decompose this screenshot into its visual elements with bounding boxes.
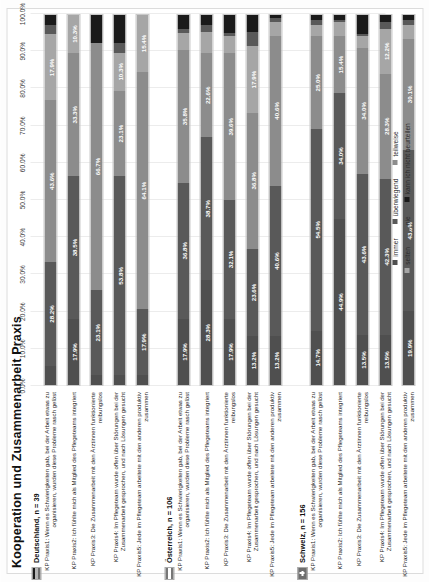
axis-tick-10: 10.0% <box>18 339 25 358</box>
bar-segment-5 <box>356 15 368 34</box>
bar-segment-4 <box>379 22 391 29</box>
legend-label: nie <box>403 216 410 225</box>
legend-swatch-icon <box>392 160 397 165</box>
axis-tick-90: 90.0% <box>18 42 25 61</box>
bar-segment-2: 40.6% <box>269 36 281 186</box>
bar-segment-4 <box>44 25 56 35</box>
flag-icon-ch <box>297 567 307 580</box>
group-title-label: Deutschland, n = 39 <box>31 493 40 563</box>
group-title-label: Österreich, n = 106 <box>164 497 173 563</box>
bar-segment-0: 13.5% <box>379 335 391 385</box>
bar-segment-5 <box>246 15 258 32</box>
bar-segment-3: 17.9% <box>44 34 56 100</box>
bar-segment-0: 17.9% <box>223 319 235 385</box>
bar-row-label: KP Praxis2: Ich fühlte mich als Mitglied… <box>69 392 76 580</box>
legend-label: überwiegend <box>391 179 398 217</box>
bar-segment-1: 38.5% <box>67 176 79 318</box>
stacked-bar[interactable]: 13.5%42.3%28.3%12.2% <box>378 14 392 386</box>
bar-row: KP Praxis1: Wenn es Schwierigkeiten gab,… <box>43 14 57 386</box>
bar-segment-3 <box>333 22 345 36</box>
plot-area: Deutschland, n = 39KP Praxis1: Wenn es S… <box>30 14 385 386</box>
axis-tick-0: 0.0% <box>18 378 25 393</box>
stacked-bar[interactable]: 13.2%23.6%36.8%17.9% <box>245 14 259 386</box>
bar-segment-1: 43.6% <box>356 174 368 335</box>
bar-segment-0: 17.9% <box>177 319 189 385</box>
legend-item[interactable]: immer <box>391 238 398 264</box>
bar-segment-2: 23.1% <box>113 91 125 176</box>
legend-item[interactable]: teilweise <box>391 131 398 164</box>
legend-item[interactable]: kann ich nicht beurteilen <box>403 123 410 202</box>
bar-segment-0: 13.5% <box>356 335 368 385</box>
stacked-bar[interactable]: 17.9%36.8%35.8% <box>176 14 190 386</box>
bar-row-label: KP Praxis3: Die Zusammenarbeit mit den Ä… <box>89 392 103 580</box>
bar-segment-1: 17.9% <box>136 309 148 375</box>
stacked-bar[interactable]: 17.9%32.1%39.6% <box>222 14 236 386</box>
bar-segment-4 <box>113 43 125 53</box>
group-title-label: Schweiz, n = 156 <box>297 504 306 563</box>
bar-segment-5 <box>90 15 102 43</box>
bar-segment-2: 43.6% <box>44 101 56 262</box>
bar-row: KP Praxis1: Wenn es Schwierigkeiten gab,… <box>309 14 323 386</box>
bar-row-label: KP Praxis1: Wenn es Schwierigkeiten gab,… <box>43 392 57 580</box>
bar-segment-0: 13.2% <box>269 336 281 385</box>
axis-tick-60: 60.0% <box>18 153 25 172</box>
stacked-bar[interactable]: 13.5%43.6%34.0% <box>355 14 369 386</box>
bar-segment-5 <box>223 15 235 33</box>
legend-item[interactable]: nie <box>403 216 410 233</box>
stacked-bar[interactable]: 28.2%43.6%17.9% <box>43 14 57 386</box>
bar-segment-3: 17.9% <box>246 46 258 112</box>
bar-row-label: KP Praxis2: Ich fühlte mich als Mitglied… <box>202 392 209 580</box>
bar-segment-2: 25.0% <box>310 36 322 129</box>
legend-item[interactable]: selten <box>403 247 410 273</box>
legend-label: kann ich nicht beurteilen <box>403 123 410 194</box>
axis-tick-80: 80.0% <box>18 79 25 98</box>
bar-row: KP Praxis2: Ich fühlte mich als Mitglied… <box>66 14 80 386</box>
group-header-österreich: Österreich, n = 106 <box>163 390 174 580</box>
bar-segment-2: 39.6% <box>223 54 235 201</box>
bar-segment-1: 53.8% <box>113 176 125 375</box>
bar-segment-5 <box>177 15 189 29</box>
axis-tick-70: 70.0% <box>18 116 25 135</box>
bar-segment-3 <box>223 36 235 53</box>
bar-segment-2: 28.3% <box>379 74 391 179</box>
stacked-bar[interactable]: 17.9%64.1%15.4% <box>135 14 149 386</box>
bar-segment-5 <box>44 15 56 25</box>
legend-swatch-icon <box>404 197 409 202</box>
bar-row-label: KP Praxis5: Jede im Pflegeteam arbeitete… <box>135 392 149 580</box>
bar-segment-1: 40.6% <box>269 186 281 336</box>
bar-segment-4 <box>200 25 212 32</box>
bar-segment-3: 10.3% <box>113 53 125 91</box>
bar-row: KP Praxis2: Ich fühlte mich als Mitglied… <box>332 14 346 386</box>
stacked-bar[interactable]: 28.3%38.7%22.6% <box>199 14 213 386</box>
bar-row-label: KP Praxis4: Im Pflegeteam wurde offen üb… <box>112 392 126 580</box>
axis-tick-40: 40.0% <box>18 228 25 247</box>
bar-segment-1: 54.5% <box>310 129 322 331</box>
bar-row-label: KP Praxis1: Wenn es Schwierigkeiten gab,… <box>309 392 323 580</box>
stacked-bar[interactable]: 23.1%66.7% <box>89 14 103 386</box>
stacked-bar[interactable]: 44.9%34.0%15.4% <box>332 14 346 386</box>
bar-segment-4 <box>310 20 322 25</box>
bar-segment-1: 28.2% <box>44 262 56 366</box>
bar-segment-3: 15.4% <box>136 15 148 72</box>
bar-segment-0 <box>44 366 56 385</box>
bar-segment-0: 14.7% <box>310 331 322 385</box>
bar-segment-4 <box>356 34 368 36</box>
x-axis-ticks: 0.0%10.0%20.0%30.0%40.0%50.0%60.0%70.0%8… <box>18 14 30 386</box>
stacked-bar[interactable]: 53.8%23.1%10.3% <box>112 14 126 386</box>
bar-segment-4 <box>223 33 235 36</box>
bar-segment-2: 34.0% <box>356 48 368 174</box>
stacked-bar[interactable]: 17.9%38.5%33.3%10.3% <box>66 14 80 386</box>
stacked-bar[interactable]: 14.7%54.5%25.0% <box>309 14 323 386</box>
bar-segment-2: 66.7% <box>90 43 102 290</box>
bar-row: KP Praxis5: Jede im Pflegeteam arbeitete… <box>135 14 149 386</box>
legend-item[interactable]: überwiegend <box>391 179 398 225</box>
bar-segment-0 <box>136 375 148 385</box>
group-header-deutschland: Deutschland, n = 39 <box>30 390 41 580</box>
bar-row-label: KP Praxis5: Jede im Pflegeteam arbeitete… <box>401 392 415 580</box>
chart-legend: immerüberwiegendteilweiseseltenniekann i… <box>391 10 421 386</box>
bar-segment-3 <box>310 25 322 37</box>
stacked-bar[interactable]: 13.2%40.6%40.6% <box>268 14 282 386</box>
legend-row-0: immerüberwiegendteilweise <box>391 10 398 386</box>
rotated-figure-wrapper: Kooperation und Zusammenarbeit Praxis 0.… <box>0 0 429 582</box>
bar-segment-3 <box>269 22 281 36</box>
